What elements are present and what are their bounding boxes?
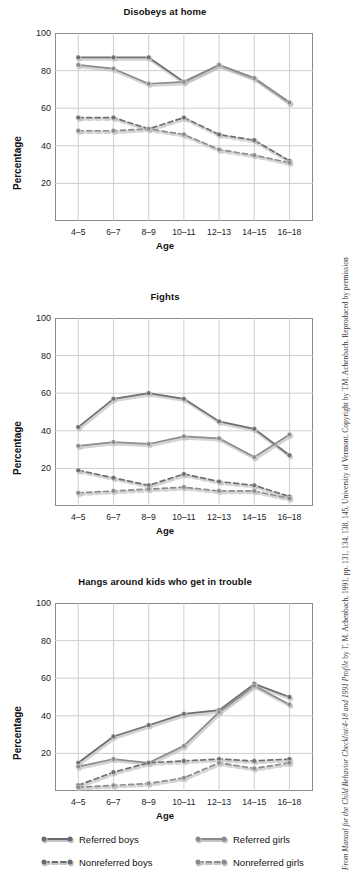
data-point [111,489,116,494]
legend-item-label: Referred girls [233,834,290,845]
data-point [287,760,292,765]
data-point [146,55,151,60]
chart-panel-disobeys-at-home: Disobeys at home Percentage Age 10080604… [0,0,354,255]
data-point [146,723,151,728]
x-axis-tick-label: 8–9 [142,797,156,807]
x-axis-tick-label: 6–7 [106,797,120,807]
data-point [252,153,257,158]
legend-item-label: Nonreferred girls [233,857,304,868]
data-point [76,443,81,448]
legend-line-swatch [40,833,74,845]
data-point [111,757,116,762]
data-point [181,115,186,120]
x-axis-tick-label: 12–13 [207,512,231,522]
legend-line-swatch [194,856,228,868]
y-axis-label: Percentage [12,706,23,760]
x-axis-tick-label: 14–15 [242,512,266,522]
data-point [181,132,186,137]
data-point [181,396,186,401]
data-point [287,496,292,501]
data-point [252,455,257,460]
data-point [111,770,116,775]
y-axis-tick-label: 80 [25,66,51,76]
y-axis-tick-label: 100 [25,598,51,608]
data-point [287,160,292,165]
y-axis-tick-label: 20 [25,178,51,188]
legend-row: Nonreferred boysNonreferred girls [0,856,330,868]
data-point [111,55,116,60]
data-point [217,489,222,494]
legend-item[interactable]: Referred boys [0,833,176,845]
x-axis-tick-label: 10–11 [172,512,195,522]
legend-line-swatch [40,856,74,868]
data-point [76,63,81,68]
x-axis-label: Age [0,240,330,251]
source-credit-plain: by T. M. Achenbach, 1991, pp. 131, 134, … [341,257,350,660]
data-point [181,743,186,748]
data-point [76,490,81,495]
data-point [181,79,186,84]
data-point [181,434,186,439]
x-axis-tick-label: 14–15 [242,797,266,807]
x-axis-tick-label: 10–11 [172,797,195,807]
figure-root: Disobeys at home Percentage Age 10080604… [0,0,354,886]
data-point [287,432,292,437]
y-axis-tick-label: 60 [25,673,51,683]
x-axis-tick-label: 8–9 [142,512,156,522]
y-axis-tick-label: 60 [25,103,51,113]
data-point [111,440,116,445]
y-axis-tick-label: 40 [25,711,51,721]
data-point [181,712,186,717]
x-axis-tick-label: 4–5 [71,797,85,807]
x-axis-label: Age [0,810,330,821]
data-point [111,128,116,133]
y-axis-tick-label: 40 [25,426,51,436]
data-point [181,775,186,780]
data-point [146,781,151,786]
data-point [76,55,81,60]
source-credit: From Manual for the Child Behavior Check… [341,257,350,870]
x-axis-tick-label: 12–13 [207,227,231,237]
data-point [287,100,292,105]
y-axis-tick-label: 80 [25,351,51,361]
legend: Referred boysReferred girlsNonreferred b… [0,833,330,868]
data-point [76,468,81,473]
data-point [217,147,222,152]
legend-item-label: Referred boys [79,834,139,845]
legend-row: Referred boysReferred girls [0,833,330,845]
legend-item-label: Nonreferred boys [79,857,152,868]
source-credit-italic: From Manual for the Child Behavior Check… [341,661,350,870]
x-axis-tick-label: 10–11 [172,227,195,237]
x-axis-tick-label: 6–7 [106,512,120,522]
data-point [76,764,81,769]
data-point [252,427,257,432]
x-axis-label: Age [0,525,330,536]
data-point [146,442,151,447]
data-point [252,489,257,494]
data-point [181,472,186,477]
data-point [217,436,222,441]
x-axis-tick-label: 16–18 [278,797,302,807]
plot-area [55,603,313,791]
data-point [76,425,81,430]
legend-item[interactable]: Nonreferred boys [0,856,176,868]
x-axis-tick-label: 4–5 [71,512,85,522]
y-axis-label: Percentage [12,136,23,190]
chart-svg [55,318,313,506]
y-axis-tick-label: 20 [25,463,51,473]
data-point [181,759,186,764]
chart-svg [55,603,313,791]
chart-title: Disobeys at home [0,6,330,17]
data-point [287,702,292,707]
plot-area [55,318,313,506]
data-point [111,115,116,120]
y-axis-tick-label: 80 [25,636,51,646]
data-point [111,475,116,480]
data-point [252,483,257,488]
plot-area [55,33,313,221]
legend-item[interactable]: Referred girls [176,833,330,845]
legend-item[interactable]: Nonreferred girls [176,856,330,868]
data-point [111,734,116,739]
data-point [287,453,292,458]
data-point [217,760,222,765]
